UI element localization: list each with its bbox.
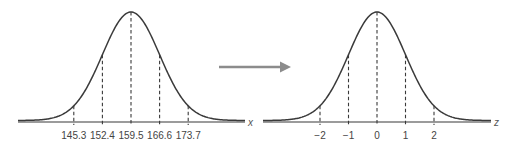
right-axis-label: z (493, 117, 499, 128)
left-tick-label: 145.3 (61, 130, 86, 141)
normal-standardization-figure: 145.3152.4159.5166.6173.7 x −2−1012 z (0, 0, 513, 148)
right-dashed-lines (320, 12, 434, 125)
left-axis-label: x (247, 117, 254, 128)
right-tick-label: −1 (343, 130, 355, 141)
right-tick-label: 1 (403, 130, 409, 141)
left-tick-label: 173.7 (176, 130, 201, 141)
right-tick-label: −2 (314, 130, 326, 141)
right-tick-label: 2 (431, 130, 437, 141)
right-tick-label: 0 (374, 130, 380, 141)
left-tick-label: 166.6 (147, 130, 172, 141)
left-normal-curve-group: 145.3152.4159.5166.6173.7 x (18, 12, 254, 141)
right-normal-curve-group: −2−1012 z (263, 12, 499, 141)
left-dashed-lines (74, 12, 188, 125)
left-tick-labels: 145.3152.4159.5166.6173.7 (61, 130, 201, 141)
left-tick-label: 159.5 (118, 130, 143, 141)
left-tick-label: 152.4 (90, 130, 115, 141)
right-tick-labels: −2−1012 (314, 130, 437, 141)
transform-arrow-icon (219, 62, 291, 73)
